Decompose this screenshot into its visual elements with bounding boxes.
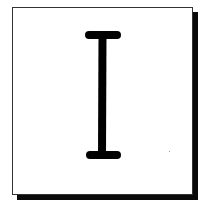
scan-artifact [169, 151, 170, 152]
text-cursor-ibeam-icon [0, 0, 203, 205]
figure-stage [0, 0, 203, 205]
